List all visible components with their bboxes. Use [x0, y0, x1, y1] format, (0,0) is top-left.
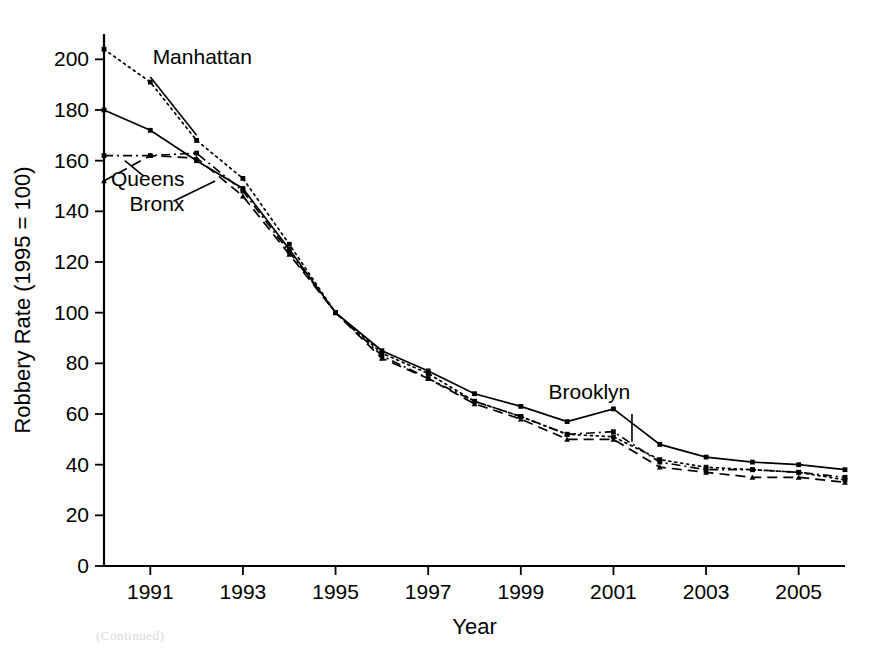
- series-queens: [101, 153, 848, 485]
- y-axis-tick-label: 100: [54, 301, 89, 324]
- leader-line-manhattan: [150, 77, 196, 135]
- y-axis-tick-label: 200: [54, 47, 89, 70]
- x-axis-tick-label: 2005: [775, 580, 822, 603]
- x-axis-tick-label: 1993: [220, 580, 267, 603]
- y-axis-title: Robbery Rate (1995 = 100): [10, 166, 35, 433]
- y-axis-tick-label: 120: [54, 250, 89, 273]
- series-layer: [101, 47, 848, 485]
- data-point-marker: [426, 369, 431, 374]
- data-point-marker: [194, 151, 199, 156]
- series-label-bronx: Bronx: [129, 192, 184, 215]
- data-point-marker: [796, 462, 801, 467]
- y-axis-tick-label: 140: [54, 199, 89, 222]
- x-axis-tick-label: 2001: [590, 580, 637, 603]
- series-line-bronx: [104, 153, 845, 477]
- y-axis-tick-label: 0: [77, 554, 89, 577]
- series-manhattan: [102, 47, 848, 483]
- data-point-marker: [657, 442, 662, 447]
- x-axis-tick-label: 2003: [683, 580, 730, 603]
- data-point-marker: [843, 467, 848, 472]
- data-point-marker: [611, 429, 616, 434]
- figure-container: 0204060801001201401601802001991199319951…: [0, 0, 876, 655]
- figure-footnote: (Continued): [96, 628, 164, 644]
- data-point-marker: [704, 455, 709, 460]
- data-point-marker: [843, 475, 848, 480]
- data-point-marker: [380, 348, 385, 353]
- data-point-marker: [657, 460, 662, 465]
- data-point-marker: [750, 467, 755, 472]
- series-label-queens: Queens: [111, 167, 185, 190]
- y-axis-tick-label: 20: [66, 503, 89, 526]
- y-axis-tick-label: 60: [66, 402, 89, 425]
- x-axis-tick-label: 1997: [405, 580, 452, 603]
- series-line-brooklyn: [104, 110, 845, 470]
- data-point-marker: [796, 470, 801, 475]
- data-point-marker: [102, 153, 107, 158]
- series-label-manhattan: Manhattan: [153, 45, 252, 68]
- data-point-marker: [148, 128, 153, 133]
- data-point-marker: [565, 419, 570, 424]
- x-axis-title: Year: [452, 614, 496, 639]
- y-axis-tick-label: 160: [54, 149, 89, 172]
- data-point-marker: [102, 47, 107, 52]
- robbery-rate-line-chart: 0204060801001201401601802001991199319951…: [0, 0, 876, 655]
- data-point-marker: [472, 391, 477, 396]
- data-point-marker: [518, 404, 523, 409]
- x-axis-tick-label: 1995: [312, 580, 359, 603]
- x-axis-tick-label: 1999: [497, 580, 544, 603]
- x-axis-tick-label: 1991: [127, 580, 174, 603]
- data-point-marker: [611, 407, 616, 412]
- data-point-marker: [241, 176, 246, 181]
- data-point-marker: [750, 460, 755, 465]
- series-brooklyn: [102, 108, 848, 472]
- series-line-manhattan: [104, 49, 845, 480]
- y-axis-tick-label: 40: [66, 453, 89, 476]
- axes-layer: 0204060801001201401601802001991199319951…: [54, 34, 845, 603]
- y-axis-tick-label: 180: [54, 98, 89, 121]
- data-point-marker: [241, 189, 246, 194]
- annotations-layer: ManhattanBrooklynBronxQueens: [111, 45, 632, 441]
- data-point-marker: [194, 138, 199, 143]
- series-bronx: [102, 151, 848, 480]
- data-point-marker: [565, 432, 570, 437]
- series-line-queens: [104, 156, 845, 483]
- data-point-marker: [102, 108, 107, 113]
- y-axis-tick-label: 80: [66, 351, 89, 374]
- series-label-brooklyn: Brooklyn: [549, 380, 631, 403]
